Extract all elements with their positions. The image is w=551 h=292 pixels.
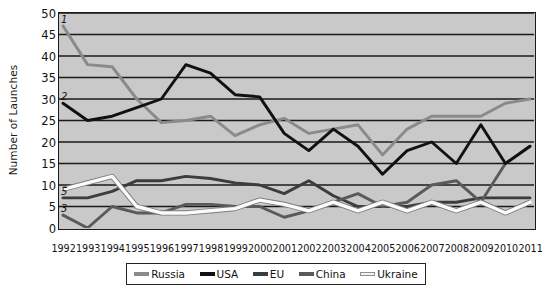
- x-axis-tick-label: 2010: [494, 243, 518, 254]
- x-axis-tick-label: 2006: [395, 243, 419, 254]
- y-axis-tick-label: 30: [20, 93, 56, 107]
- legend-swatch-ukraine-icon: [360, 272, 375, 276]
- x-axis-tick-label: 2007: [420, 243, 444, 254]
- legend-item-china[interactable]: China: [299, 268, 346, 280]
- series-start-marker-china: 3: [61, 203, 67, 214]
- x-axis-tick-label: 1999: [223, 243, 247, 254]
- y-axis-tick-label: 20: [20, 136, 56, 150]
- x-axis-tick-label: 2004: [346, 243, 370, 254]
- x-axis-tick-label: 1997: [174, 243, 198, 254]
- y-axis-tick-label: 40: [20, 50, 56, 64]
- y-axis-tick-label: 15: [20, 157, 56, 171]
- x-axis-tick-label: 2008: [445, 243, 469, 254]
- series-start-marker-eu: 5: [61, 186, 67, 197]
- y-axis-tick-label: 35: [20, 71, 56, 85]
- legend-item-ukraine[interactable]: Ukraine: [360, 268, 418, 280]
- x-axis-tick-label: 2002: [297, 243, 321, 254]
- legend-label: EU: [270, 268, 284, 280]
- x-axis-tick-label: 2001: [273, 243, 297, 254]
- x-axis-tick-label: 1993: [76, 243, 100, 254]
- x-axis-tick-label: 1998: [199, 243, 223, 254]
- plot-svg: [59, 13, 534, 228]
- y-axis-tick-label: 25: [20, 114, 56, 128]
- legend-swatch-eu-icon: [253, 272, 268, 275]
- y-axis-ticks: 05101520253035404550: [16, 0, 56, 240]
- legend-item-usa[interactable]: USA: [200, 268, 239, 280]
- launches-line-chart: Number of Launches 05101520253035404550 …: [0, 0, 551, 292]
- x-axis-tick-label: 1996: [150, 243, 174, 254]
- series-line-russia: [63, 26, 530, 155]
- x-axis-tick-label: 2003: [322, 243, 346, 254]
- legend-item-eu[interactable]: EU: [253, 268, 284, 280]
- y-axis-tick-label: 45: [20, 28, 56, 42]
- y-axis-tick-label: 50: [20, 7, 56, 21]
- x-axis-ticks: 1992199319941995199619971998199920002001…: [0, 243, 551, 259]
- y-axis-tick-label: 0: [20, 222, 56, 236]
- series-start-marker-russia: 1: [61, 14, 67, 25]
- series-line-usa: [63, 65, 530, 175]
- x-axis-tick-label: 2005: [371, 243, 395, 254]
- x-axis-tick-label: 2009: [469, 243, 493, 254]
- legend-label: USA: [217, 268, 239, 280]
- y-axis-tick-label: 10: [20, 179, 56, 193]
- x-axis-tick-label: 1995: [125, 243, 149, 254]
- series-start-marker-usa: 2: [61, 91, 67, 102]
- legend-label: Ukraine: [377, 268, 418, 280]
- chart-legend: RussiaUSAEUChinaUkraine: [126, 263, 426, 285]
- legend-label: Russia: [151, 268, 185, 280]
- legend-swatch-russia-icon: [134, 272, 149, 275]
- x-axis-tick-label: 1994: [101, 243, 125, 254]
- x-axis-tick-label: 1992: [51, 243, 75, 254]
- legend-swatch-usa-icon: [200, 272, 215, 275]
- x-axis-tick-label: 2011: [518, 243, 542, 254]
- legend-item-russia[interactable]: Russia: [134, 268, 185, 280]
- plot-area: 1253: [58, 12, 536, 230]
- legend-label: China: [316, 268, 346, 280]
- x-axis-tick-label: 2000: [248, 243, 272, 254]
- legend-swatch-china-icon: [299, 272, 314, 275]
- y-axis-tick-label: 5: [20, 200, 56, 214]
